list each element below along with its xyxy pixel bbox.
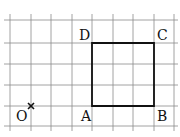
label-b: B <box>157 108 167 124</box>
label-a: A <box>80 108 92 124</box>
label-d: D <box>79 27 90 43</box>
label-c: C <box>157 27 168 43</box>
square-abcd <box>92 43 154 106</box>
grid-diagram: O A B C D <box>0 0 180 137</box>
diagram-svg: O A B C D <box>0 0 180 137</box>
label-o: O <box>16 108 27 124</box>
